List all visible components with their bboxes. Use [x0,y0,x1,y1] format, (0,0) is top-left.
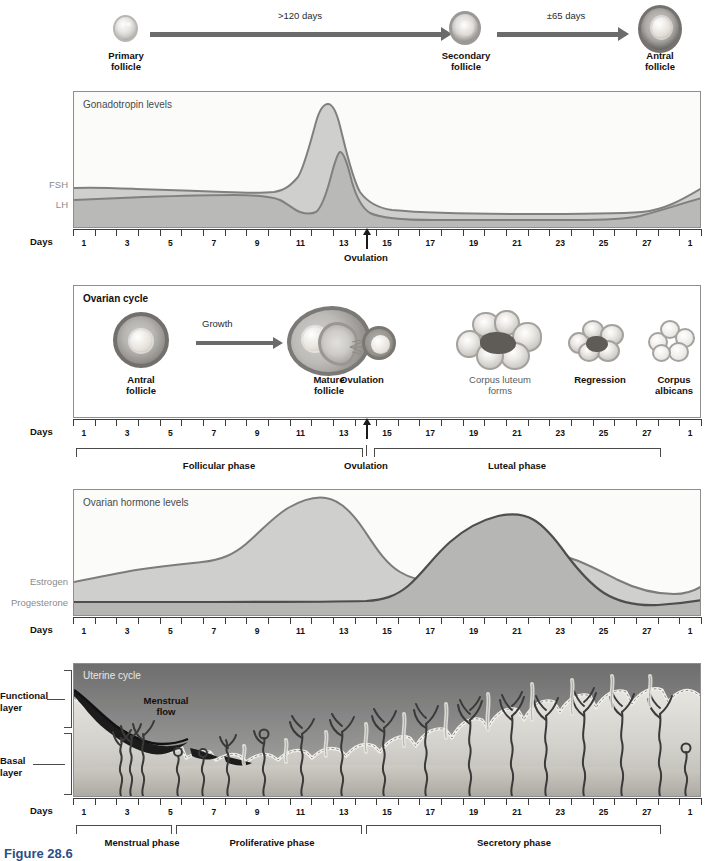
axis-tick-label: 21 [512,428,521,438]
axis-tick [463,617,464,624]
axis-tick [571,798,572,805]
arrow-primary-to-secondary-label: >120 days [278,10,322,21]
axis-tick [116,617,117,624]
basal-layer-leader [33,764,65,765]
days-label-uterine: Days [30,805,53,816]
menstrual-flow-label-line1: Menstrual [126,695,206,706]
axis-tick [203,419,204,426]
axis-tick [246,617,247,624]
axis-tick [333,617,334,624]
estrogen-series-label: Estrogen [5,576,68,587]
axis-tick [203,617,204,624]
antral-follicle-icon [638,5,682,53]
axis-tick-label: 7 [211,238,216,248]
axis-tick-label: 5 [168,238,173,248]
ovulation-arrow-gonadotropin [366,234,368,249]
axis-tick-label: 27 [642,626,651,636]
antral-follicle-label: Antral follicle [617,50,703,72]
arrow-secondary-to-antral-label: ±65 days [547,10,586,21]
axis-tick-label: 1 [81,626,86,636]
axis-tick-label: 11 [296,626,305,636]
axis-tick [181,229,182,236]
axis-tick [95,419,96,426]
corpus-albicans-label: Corpus albicans [642,374,701,396]
gonadotropin-chart: Gonadotropin levels [73,91,701,228]
ovulation-structure-label: Ovulation [302,374,422,385]
corpus-albicans-label-line2: albicans [642,385,701,396]
axis-tick [376,798,377,805]
axis-tick [484,419,485,426]
axis-tick-label: 9 [255,626,260,636]
axis-tick [160,229,161,236]
axis-tick [160,798,161,805]
luteal-phase-bracket [374,448,661,457]
gonadotropin-panel-title: Gonadotropin levels [83,99,172,110]
menstrual-flow-label-line2: flow [126,706,206,717]
axis-tick [463,229,464,236]
axis-tick [398,229,399,236]
axis-tick-label: 1 [688,238,693,248]
axis-tick [333,229,334,236]
axis-tick [311,229,312,236]
days-label-hormone: Days [30,624,53,635]
axis-tick [506,419,507,426]
axis-tick-label: 3 [125,238,130,248]
axis-tick [441,229,442,236]
axis-tick [614,617,615,624]
axis-tick [528,617,529,624]
secondary-follicle-label: Secondary follicle [422,50,510,72]
axis-tick [484,229,485,236]
ovarian-cycle-panel-title: Ovarian cycle [83,293,148,304]
axis-tick-label: 1 [688,428,693,438]
axis-tick [419,419,420,426]
axis-tick [225,229,226,236]
axis-tick [528,419,529,426]
ovarian-antral-follicle-label: Antral follicle [98,374,184,396]
axis-tick [549,419,550,426]
axis-tick-label: 15 [382,428,391,438]
ovarian-hormone-chart: Ovarian hormone levels [73,489,701,616]
axis-tick [571,229,572,236]
axis-tick [484,798,485,805]
secretory-phase-label: Secretory phase [477,837,551,848]
uterine-panel-title: Uterine cycle [83,670,141,681]
follicular-phase-bracket [76,448,363,457]
axis-tick [398,617,399,624]
axis-tick [636,229,637,236]
axis-tick [679,798,680,805]
axis-tick [549,229,550,236]
axis-tick [376,229,377,236]
ovarian-antral-label-line2: follicle [98,385,184,396]
primary-follicle-icon [113,15,138,42]
axis-tick [355,419,356,426]
axis-tick-label: 19 [469,238,478,248]
axis-tick [658,419,659,426]
axis-baseline [73,419,701,420]
luteal-phase-label: Luteal phase [488,460,546,471]
fsh-series-label: FSH [24,179,68,190]
axis-tick [419,798,420,805]
axis-tick [398,419,399,426]
axis-tick-label: 3 [125,807,130,817]
follicle-development-row: Primary follicle >120 days Secondary fol… [0,0,715,78]
ovarian-antral-label-line1: Antral [98,374,184,385]
axis-tick [160,617,161,624]
axis-tick [658,798,659,805]
axis-tick [376,617,377,624]
axis-tick [463,798,464,805]
secondary-follicle-label-line1: Secondary [422,50,510,61]
follicular-phase-label: Follicular phase [183,460,255,471]
axis-gonadotropin: 135791113151719212325271 [73,229,701,251]
secondary-follicle-icon [449,11,481,45]
axis-tick [614,419,615,426]
axis-tick [311,617,312,624]
axis-ovarian-cycle: 135791113151719212325271 [73,419,701,441]
secretory-phase-bracket [366,825,661,834]
axis-tick [355,798,356,805]
axis-tick [225,617,226,624]
axis-tick-label: 9 [255,238,260,248]
axis-tick-label: 21 [512,238,521,248]
axis-tick-label: 27 [642,238,651,248]
progesterone-series-label: Progesterone [0,597,68,608]
axis-tick [398,798,399,805]
